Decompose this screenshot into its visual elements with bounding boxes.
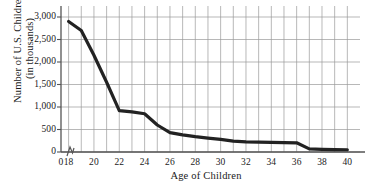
x-axis-title: Age of Children [0, 170, 372, 181]
plot-area [0, 0, 372, 190]
chart-figure: Number of U.S. Children (in thousands) 0… [0, 0, 372, 190]
